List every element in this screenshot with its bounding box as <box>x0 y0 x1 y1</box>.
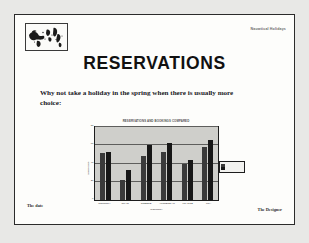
bar <box>147 145 152 200</box>
bar-group <box>161 127 172 200</box>
x-axis-tick: AMSTERDAM <box>157 202 177 205</box>
y-axis-tick: 0 <box>92 197 93 200</box>
bar <box>126 170 131 200</box>
bar-group <box>141 127 152 200</box>
bar <box>106 152 111 200</box>
x-axis-tick: FRANCE <box>178 202 198 205</box>
bar-chart: RESERVATIONS AND BOOKINGS COMPARED 02040… <box>81 119 231 217</box>
chart-x-axis-labels: COUNTRYSPAINGREECEAMSTERDAMFRANCEUSA <box>94 202 219 205</box>
bar <box>167 143 172 200</box>
bar-group <box>100 127 111 200</box>
bar-group <box>120 127 131 200</box>
chart-y-axis-label: BOOKINGS <box>87 162 90 175</box>
bar <box>182 164 187 201</box>
x-axis-tick: USA <box>199 202 219 205</box>
chart-title: RESERVATIONS AND BOOKINGS COMPARED <box>81 119 231 123</box>
chart-plot-area: 020406080 <box>94 126 219 201</box>
y-axis-tick: 20 <box>91 178 94 181</box>
bar <box>100 153 105 200</box>
bar-group <box>182 127 193 200</box>
bar <box>188 160 193 200</box>
legend-item: BOOKINGS <box>221 167 243 170</box>
bar <box>202 147 207 200</box>
x-axis-tick: SPAIN <box>115 202 135 205</box>
bar <box>161 152 166 200</box>
x-axis-tick: GREECE <box>136 202 156 205</box>
footer-date: The date <box>27 203 43 208</box>
y-axis-tick: 80 <box>91 124 94 127</box>
bar <box>208 140 213 200</box>
body-text: Why not take a holiday in the spring whe… <box>40 89 250 108</box>
y-axis-tick: 60 <box>91 142 94 145</box>
company-name: Nauwtical Holidays <box>251 27 286 31</box>
bar <box>120 180 125 200</box>
legend-label: BOOKINGS <box>227 168 244 170</box>
y-axis-tick: 40 <box>91 160 94 163</box>
page-background: Nauwtical Holidays RESERVATIONS Why not … <box>0 0 309 243</box>
chart-bars <box>95 127 218 200</box>
legend-label: RESERVATIONS <box>227 164 244 166</box>
legend-swatch <box>221 167 225 170</box>
bar-group <box>202 127 213 200</box>
bar <box>141 156 146 200</box>
footer-designer: The Designer <box>258 207 282 212</box>
x-axis-tick: COUNTRY <box>94 202 114 205</box>
chart-plot <box>95 127 218 200</box>
page-title: RESERVATIONS <box>15 53 294 74</box>
world-map-icon <box>25 23 68 51</box>
presentation-slide: Nauwtical Holidays RESERVATIONS Why not … <box>14 14 295 225</box>
chart-legend: RESERVATIONSBOOKINGS <box>219 161 245 173</box>
chart-x-axis-label: COUNTRY <box>94 208 219 211</box>
